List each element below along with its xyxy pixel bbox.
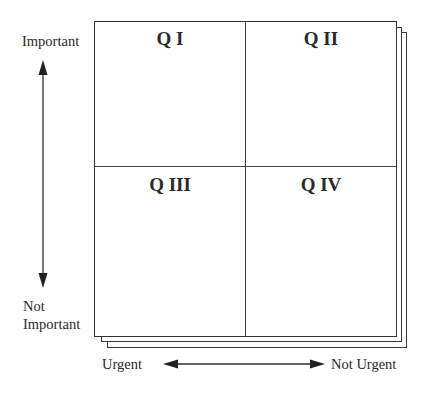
label-urgent: Urgent [102,356,142,373]
axis-arrows [0,0,430,394]
label-not-important-line1: Not [23,298,45,315]
label-not-important-line2: Important [23,316,80,333]
horizontal-double-arrow-icon [163,360,325,369]
label-important: Important [22,33,79,50]
label-not-urgent: Not Urgent [331,356,396,373]
vertical-double-arrow-icon [39,60,48,288]
